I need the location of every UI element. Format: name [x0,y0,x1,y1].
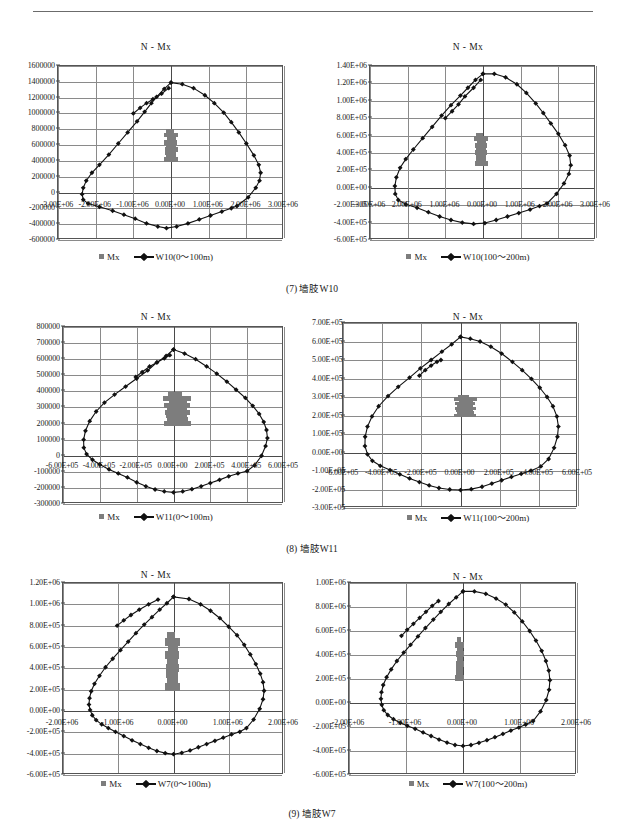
y-axis-tick-label: 0.00E+00 [312,698,346,707]
y-axis-tick [347,678,351,679]
y-axis-tick [61,667,65,668]
chart-legend: MxW7(0～100m) [0,777,312,790]
x-axis-tick-label: -1.00E+06 [389,718,421,727]
y-axis-tick-label: 0.00E+00 [0,706,60,715]
y-axis-tick-label: 1.00E+06 [312,578,346,587]
x-axis-tick-label: -2.00E+06 [332,718,364,727]
y-axis-tick [347,702,351,703]
legend-label-mx: Mx [417,779,430,789]
y-axis-tick-label: 2.00E+05 [312,674,346,683]
line-marker-icon [443,780,463,787]
legend-item-mx: Mx [101,779,122,789]
y-axis-tick-label: 6.00E+05 [312,626,346,635]
y-axis-tick-label: 4.00E+05 [312,650,346,659]
square-marker-icon [101,781,106,786]
y-axis-tick [347,630,351,631]
y-axis-tick [61,646,65,647]
y-axis-tick-label: 2.00E+05 [0,684,60,693]
y-axis-tick-label: 1.00E+06 [0,599,60,608]
x-axis-tick-label: -1.00E+06 [101,718,133,727]
gridline-vertical [577,583,578,773]
y-axis-tick-label: 1.20E+06 [0,578,60,587]
chart-legend: MxW7(100～200m) [312,777,624,790]
x-axis-tick-label: 0.00E+00 [447,718,477,727]
gridline-horizontal [349,775,575,776]
plot-area [62,582,283,774]
y-axis-tick-label: 8.00E+05 [0,620,60,629]
interaction-curve [63,583,284,775]
legend-label-series: W7(100～200m) [465,779,527,789]
legend-label-mx: Mx [109,779,122,789]
interaction-curve [349,583,577,775]
x-axis-tick-label: 0.00E+00 [158,718,188,727]
y-axis-tick [347,654,351,655]
gridline-vertical [284,583,285,773]
y-axis-tick [61,752,65,753]
y-axis-tick-label: 8.00E+06 [312,602,346,611]
y-axis-tick-label: -2.00E+05 [0,727,60,736]
y-axis-tick-label: 6.00E+05 [0,642,60,651]
line-marker-icon [136,780,156,787]
y-axis-tick-label: -4.00E+05 [0,748,60,757]
x-axis-tick-label: 1.00E+06 [504,718,534,727]
gridline-horizontal [63,775,282,776]
y-axis-tick [347,582,351,583]
x-axis-tick-label: -2.00E+06 [46,718,78,727]
y-axis-tick [347,606,351,607]
y-axis-tick-label: 4.00E+05 [0,663,60,672]
figure-caption-cap-8: (8) 墙肢W11 [0,541,624,555]
y-axis-tick [61,582,65,583]
y-axis-tick [61,710,65,711]
x-axis-tick-label: 1.00E+06 [213,718,243,727]
y-axis-tick [61,603,65,604]
square-marker-icon [409,781,414,786]
legend-label-series: W7(0～100m) [158,779,211,789]
chart-chart-w7-100-200: N - Mx-6.00E+05-4.00E+05-2.00E+050.00E+0… [312,0,624,835]
x-axis-tick-label: 2.00E+06 [268,718,298,727]
legend-item-series: W7(100～200m) [443,777,527,790]
figure-caption-cap-7: (7) 墙肢W10 [0,281,624,295]
chart-chart-w7-0-100: N - Mx-6.00E+05-4.00E+05-2.00E+050.00E+0… [0,0,312,835]
y-axis-tick [347,750,351,751]
y-axis-tick-label: -4.00E+05 [312,746,346,755]
figure-caption-cap-9: (9) 墙肢W7 [0,806,624,820]
document-page: N - Mx-600000-400000-2000000200000400000… [0,0,624,835]
chart-title: N - Mx [312,572,624,582]
y-axis-tick [61,688,65,689]
legend-item-mx: Mx [409,779,430,789]
legend-item-series: W7(0～100m) [136,777,211,790]
y-axis-tick [347,774,351,775]
y-axis-tick [61,624,65,625]
x-axis-tick-label: 2.00E+06 [561,718,591,727]
y-axis-tick [61,731,65,732]
plot-area [348,582,576,774]
y-axis-tick [61,774,65,775]
